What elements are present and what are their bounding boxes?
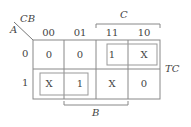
row-header: 0 (22, 48, 28, 59)
kmap-cell: 0 (64, 40, 96, 69)
col-header: 10 (128, 27, 160, 38)
bracket-top-label: C (120, 9, 128, 20)
col-header: 01 (64, 27, 96, 38)
col-header: 11 (96, 27, 128, 38)
kmap-cell: X (33, 69, 65, 98)
kmap-cell: 1 (64, 69, 96, 98)
kmap-cell: 0 (33, 40, 65, 69)
kmap-cell: 1 (96, 40, 128, 69)
kmap-cell: X (128, 40, 160, 69)
output-label: TC (165, 63, 179, 74)
bracket-bottom-label: B (92, 107, 99, 118)
col-header: 00 (33, 27, 64, 38)
kmap-cell: 0 (128, 69, 160, 98)
row-header: 1 (22, 77, 28, 88)
corner-top-label: CB (20, 13, 35, 24)
corner-left-label: A (10, 24, 17, 35)
kmap-cell: X (96, 69, 128, 98)
